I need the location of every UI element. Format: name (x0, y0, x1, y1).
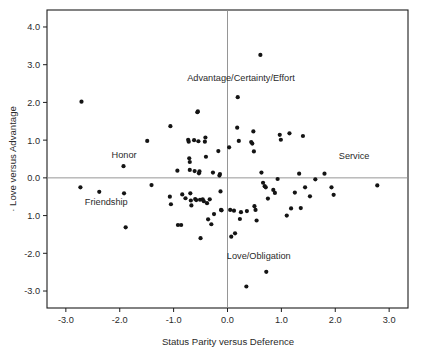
data-point (252, 149, 256, 153)
data-point (169, 202, 173, 206)
y-tick-label: -3.0 (24, 286, 40, 296)
data-point (121, 164, 125, 168)
data-point (122, 191, 126, 195)
cluster-annotation-label: Love/Obligation (227, 251, 291, 261)
x-axis-ticks: -3.0-2.0-1.00.01.02.03.0 (58, 308, 396, 325)
data-point (227, 145, 231, 149)
data-point (183, 196, 187, 200)
data-point (145, 139, 149, 143)
data-point (189, 203, 193, 207)
scatter-plot-figure: -3.0-2.0-1.00.01.02.03.0 4.03.02.01.00.0… (0, 0, 426, 354)
y-axis-title: · Love versus Advantage (7, 106, 18, 212)
data-point (209, 222, 213, 226)
data-point (303, 185, 307, 189)
data-point (266, 197, 270, 201)
y-axis-ticks: 4.03.02.01.00.01.0-2.0-3.0 (24, 22, 47, 296)
data-point (78, 185, 82, 189)
y-tick-label: 3.0 (27, 60, 40, 70)
cluster-annotation-label: Advantage/Certainty/Effort (187, 73, 295, 83)
y-tick-label: -2.0 (24, 249, 40, 259)
data-point (218, 189, 222, 193)
data-point (301, 134, 305, 138)
data-point (259, 170, 263, 174)
data-point (168, 124, 172, 128)
data-point (228, 208, 232, 212)
y-tick-label: 0.0 (27, 173, 40, 183)
data-point (238, 217, 242, 221)
data-point (187, 140, 191, 144)
data-point (149, 183, 153, 187)
x-tick-label: -1.0 (166, 315, 182, 325)
data-point (179, 223, 183, 227)
data-point (188, 168, 192, 172)
data-point (188, 191, 192, 195)
data-point (193, 169, 197, 173)
data-point (203, 140, 207, 144)
data-point (232, 209, 236, 213)
data-point (229, 235, 233, 239)
data-point (218, 172, 222, 176)
x-tick-label: 1.0 (275, 315, 288, 325)
data-point (124, 225, 128, 229)
y-tick-label: 1.0 (27, 211, 40, 221)
data-point (216, 149, 220, 153)
data-point (233, 231, 237, 235)
data-point (236, 95, 240, 99)
data-point (285, 213, 289, 217)
cluster-annotation-label: Service (339, 151, 370, 161)
data-point (276, 177, 280, 181)
data-point (211, 170, 215, 174)
x-axis-title: Status Parity versus Deference (162, 336, 294, 347)
data-point (188, 160, 192, 164)
data-point (239, 210, 243, 214)
data-point (208, 197, 212, 201)
data-point (204, 155, 208, 159)
data-point (322, 172, 326, 176)
data-point (192, 138, 196, 142)
data-point (375, 183, 379, 187)
data-point (329, 185, 333, 189)
data-point (244, 284, 248, 288)
data-point (289, 206, 293, 210)
data-point (212, 212, 216, 216)
cluster-annotation-label: Honor (112, 150, 137, 160)
data-point (237, 139, 241, 143)
data-point (180, 192, 184, 196)
data-point (235, 126, 239, 130)
data-point (264, 185, 268, 189)
data-point (195, 110, 199, 114)
data-point (264, 270, 268, 274)
data-point (194, 198, 198, 202)
data-point (189, 198, 193, 202)
cluster-annotation-label: Friendship (85, 197, 128, 207)
data-point (219, 208, 223, 212)
x-tick-label: -3.0 (58, 315, 74, 325)
data-point (203, 135, 207, 139)
data-point (287, 131, 291, 135)
scatter-plot-svg: -3.0-2.0-1.00.01.02.03.0 4.03.02.01.00.0… (0, 0, 426, 354)
data-point (245, 209, 249, 213)
data-point (187, 156, 191, 160)
data-point (205, 201, 209, 205)
data-point (308, 194, 312, 198)
y-tick-label: 2.0 (27, 98, 40, 108)
data-point (332, 193, 336, 197)
x-tick-label: 0.0 (221, 315, 234, 325)
y-tick-label: 1.0 (27, 136, 40, 146)
data-point (196, 139, 200, 143)
data-point (299, 206, 303, 210)
data-point (79, 100, 83, 104)
data-point (255, 218, 259, 222)
data-point (293, 190, 297, 194)
x-tick-label: 2.0 (329, 315, 342, 325)
data-point (175, 169, 179, 173)
data-point (258, 53, 262, 57)
x-tick-label: -2.0 (112, 315, 128, 325)
data-point (168, 195, 172, 199)
data-point (97, 190, 101, 194)
data-point (198, 236, 202, 240)
data-point (197, 169, 201, 173)
y-tick-label: 4.0 (27, 22, 40, 32)
data-point (273, 191, 277, 195)
data-point (297, 172, 301, 176)
